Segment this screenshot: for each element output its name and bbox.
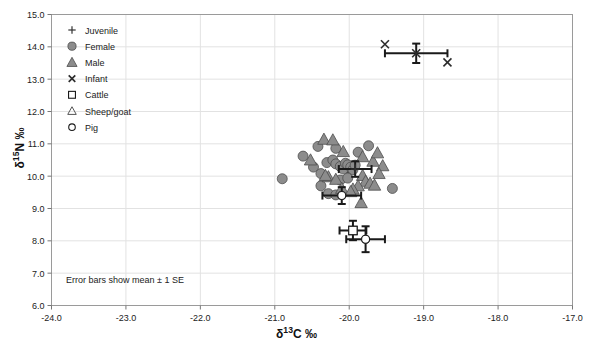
legend-label: Pig: [85, 123, 98, 133]
data-points-layer: [277, 40, 451, 243]
y-tick-label: 11.0: [28, 139, 45, 149]
legend-label: Infant: [85, 74, 108, 84]
legend-label: Sheep/goat: [85, 107, 132, 117]
data-point-cross: [69, 75, 76, 82]
legend-label: Cattle: [85, 90, 109, 100]
x-tick-label: -21.0: [265, 313, 286, 323]
data-point-filled-triangle: [67, 57, 77, 66]
x-tick-label: -18.0: [488, 313, 509, 323]
legend-label: Female: [85, 42, 115, 52]
x-tick-label: -19.0: [413, 313, 434, 323]
legend-item-female: Female: [68, 42, 115, 52]
x-axis-ticks: -24.0-23.0-22.0-21.0-20.0-19.0-18.0-17.0: [41, 306, 583, 323]
legend-item-juvenile: Juvenile: [68, 26, 118, 36]
data-point-plus: [68, 26, 75, 33]
data-point-filled-circle: [298, 151, 308, 161]
legend-item-male: Male: [67, 57, 105, 68]
data-point-filled-circle: [277, 174, 287, 184]
data-point-open-circle: [338, 192, 346, 200]
legend-item-pig: Pig: [69, 123, 98, 133]
y-tick-label: 13.0: [27, 75, 45, 85]
data-point-open-square: [349, 226, 357, 234]
x-axis-title-text: δ13C ‰: [276, 327, 317, 341]
error-bar-note: Error bars show mean ± 1 SE: [66, 275, 184, 285]
data-point-open-circle: [362, 235, 370, 243]
y-tick-label: 6.0: [32, 301, 45, 311]
x-tick-label: -20.0: [339, 313, 360, 323]
y-tick-label: 10.0: [27, 172, 45, 182]
y-axis-ticks: 6.07.08.09.010.011.012.013.014.015.0: [27, 10, 52, 311]
data-point-cross: [443, 58, 451, 66]
plot-canvas: -24.0-23.0-22.0-21.0-20.0-19.0-18.0-17.0…: [0, 0, 593, 353]
data-point-filled-circle: [316, 181, 326, 191]
data-point-open-square: [69, 91, 76, 98]
data-point-filled-circle: [364, 141, 374, 151]
y-axis-title: δ15N ‰: [11, 108, 27, 188]
data-point-filled-triangle: [327, 134, 339, 145]
x-tick-label: -23.0: [116, 313, 137, 323]
y-tick-label: 7.0: [32, 269, 45, 279]
annotation-note: Error bars show mean ± 1 SE: [66, 275, 184, 285]
data-point-open-circle: [69, 124, 76, 131]
y-tick-label: 9.0: [32, 204, 45, 214]
x-tick-label: -24.0: [41, 313, 62, 323]
data-point-filled-circle: [343, 173, 353, 183]
y-tick-label: 14.0: [27, 42, 45, 52]
legend-item-cattle: Cattle: [69, 90, 109, 100]
y-tick-label: 8.0: [32, 236, 45, 246]
x-tick-label: -17.0: [562, 313, 583, 323]
scatter-plot-figure: -24.0-23.0-22.0-21.0-20.0-19.0-18.0-17.0…: [0, 0, 593, 353]
data-point-filled-circle: [68, 42, 76, 50]
y-tick-label: 15.0: [27, 10, 45, 20]
y-axis-title-text: δ15N ‰: [13, 128, 27, 169]
data-point-open-triangle: [68, 107, 77, 115]
x-axis-title: δ13C ‰: [0, 325, 593, 341]
legend-label: Juvenile: [85, 26, 118, 36]
legend-label: Male: [85, 58, 105, 68]
y-tick-label: 12.0: [27, 107, 45, 117]
data-point-filled-circle: [387, 183, 397, 193]
x-tick-label: -22.0: [190, 313, 211, 323]
